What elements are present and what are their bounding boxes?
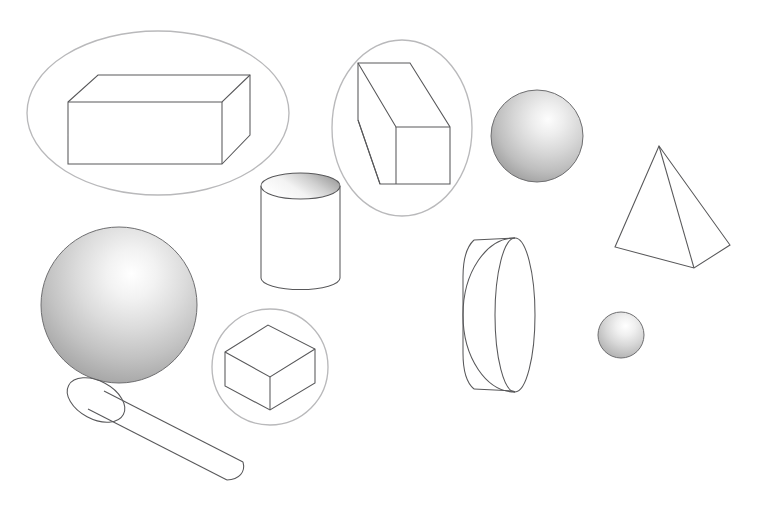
solids-svg bbox=[0, 0, 767, 509]
shape-vertical-cylinder bbox=[261, 173, 340, 290]
illustration-canvas: Geometric solids illustration A white pa… bbox=[0, 0, 767, 509]
shape-rectangular-box bbox=[68, 75, 250, 164]
shape-tilted-rod-cylinder bbox=[60, 369, 244, 480]
shape-cube bbox=[225, 325, 315, 410]
shape-sphere-medium bbox=[491, 90, 583, 182]
shape-sphere-large bbox=[41, 227, 197, 383]
shape-slanted-box bbox=[358, 63, 450, 184]
shape-pyramid bbox=[615, 146, 730, 268]
shape-sphere-small bbox=[598, 312, 644, 358]
shape-drum-cylinder bbox=[463, 238, 535, 392]
